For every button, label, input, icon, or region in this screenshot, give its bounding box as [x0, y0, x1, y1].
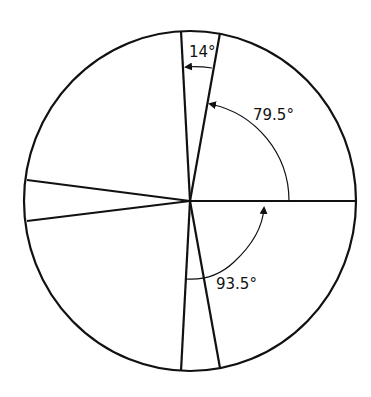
- arc-14-arrow: [186, 67, 212, 68]
- radial-lines: [27, 31, 356, 371]
- line-bottom-left: [181, 201, 190, 371]
- line-left-upper: [27, 180, 190, 201]
- label-14-deg: 14°: [189, 43, 216, 61]
- line-left-lower: [27, 201, 190, 221]
- diagram-canvas: 14° 79.5° 93.5°: [0, 0, 371, 397]
- label-79-5-deg: 79.5°: [253, 106, 294, 124]
- label-93-5-deg: 93.5°: [216, 275, 257, 293]
